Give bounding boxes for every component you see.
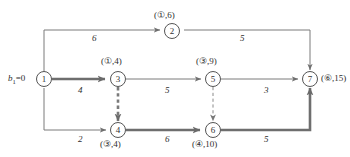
edge-weight-4-6: 6 xyxy=(165,135,170,144)
node-6-number: 6 xyxy=(211,125,216,135)
node-3-number: 3 xyxy=(116,74,121,84)
node-5-number: 5 xyxy=(211,74,216,84)
node-4-number: 4 xyxy=(116,125,121,135)
network-graph-canvas: 1 2 3 4 5 6 7 xyxy=(0,0,350,157)
node-4[interactable]: 4 xyxy=(111,123,126,138)
edge-1-to-4 xyxy=(44,88,106,130)
node-7-label: (⑥,15) xyxy=(321,74,346,83)
node-2-label: (①,6) xyxy=(154,11,175,20)
node-2[interactable]: 2 xyxy=(165,24,180,39)
node-5-label: (③,9) xyxy=(196,57,217,66)
node-4-label: (③,4) xyxy=(100,140,121,149)
node-3-label: (①,4) xyxy=(101,57,122,66)
node-1[interactable]: 1 xyxy=(37,72,52,87)
edge-weight-2-7: 5 xyxy=(240,34,245,43)
edge-weight-3-5: 5 xyxy=(165,86,170,95)
node-5[interactable]: 5 xyxy=(206,72,221,87)
edge-weight-1-2: 6 xyxy=(92,34,97,43)
node-2-number: 2 xyxy=(170,26,175,36)
edge-weight-1-3: 4 xyxy=(78,86,83,95)
node-3[interactable]: 3 xyxy=(111,72,126,87)
edge-weight-6-7: 5 xyxy=(264,135,269,144)
edge-weight-5-7: 3 xyxy=(264,86,269,95)
node-6-label: (④,10) xyxy=(192,140,217,149)
edge-weight-1-4: 2 xyxy=(78,135,83,144)
network-flow-diagram: 1 2 3 4 5 6 7 b1=0 6 5 4 5 3 2 xyxy=(0,0,350,157)
node-7-number: 7 xyxy=(308,74,313,84)
node-7[interactable]: 7 xyxy=(303,72,318,87)
node-6[interactable]: 6 xyxy=(206,123,221,138)
source-node-label: b1=0 xyxy=(8,74,25,85)
node-1-number: 1 xyxy=(42,74,47,84)
